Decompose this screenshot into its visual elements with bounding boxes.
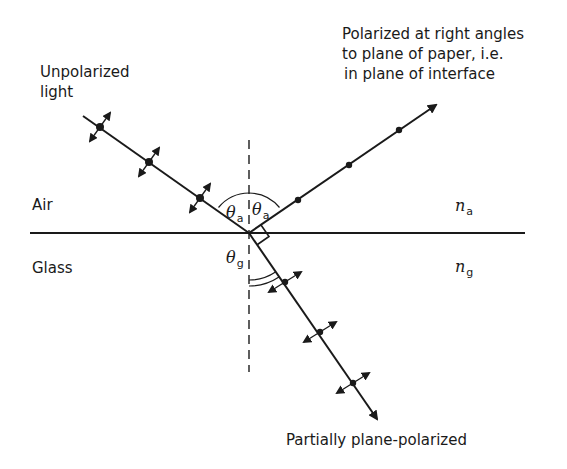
- reflected-label-line1: Polarized at right angles: [342, 25, 524, 43]
- reflected-angle-label: θa: [252, 200, 269, 222]
- reflected-label-line2: to plane of paper, i.e.: [342, 45, 504, 63]
- refracted-polarization-markers: [269, 272, 369, 393]
- incident-ray: [83, 116, 249, 233]
- refracted-label: Partially plane-polarized: [286, 431, 467, 449]
- glass-index-label: ng: [455, 257, 473, 279]
- air-index-label: na: [455, 196, 473, 218]
- refracted-angle-arc-outer: [249, 277, 279, 286]
- incident-label-line2: light: [40, 83, 73, 101]
- brewster-angle-diagram: Unpolarized light Polarized at right ang…: [0, 0, 567, 469]
- refracted-angle-arc-inner: [249, 272, 276, 280]
- incident-polarization-markers: [90, 113, 210, 212]
- air-label: Air: [32, 196, 53, 214]
- incident-angle-label: θa: [226, 203, 243, 225]
- glass-label: Glass: [32, 259, 73, 277]
- refracted-angle-label: θg: [226, 248, 244, 270]
- incident-label-line1: Unpolarized: [40, 63, 130, 81]
- reflected-ray: [249, 105, 436, 233]
- refracted-ray: [249, 233, 377, 419]
- right-angle-mark: [258, 225, 270, 245]
- reflected-label-line3: in plane of interface: [344, 65, 495, 83]
